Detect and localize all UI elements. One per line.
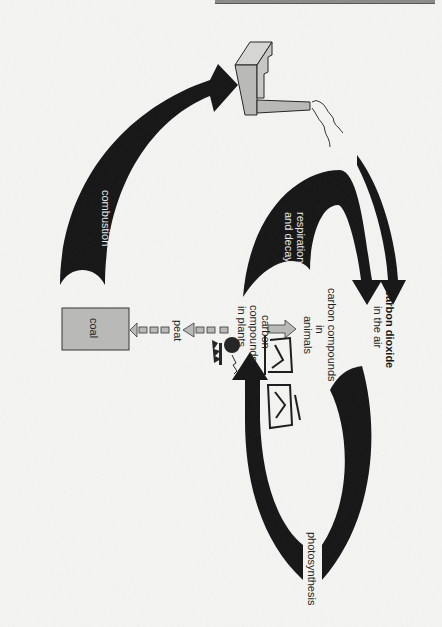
scan-texture [0, 0, 442, 627]
carbon-cycle-diagram: coal [0, 0, 442, 627]
diagram-canvas: coal [0, 0, 442, 627]
